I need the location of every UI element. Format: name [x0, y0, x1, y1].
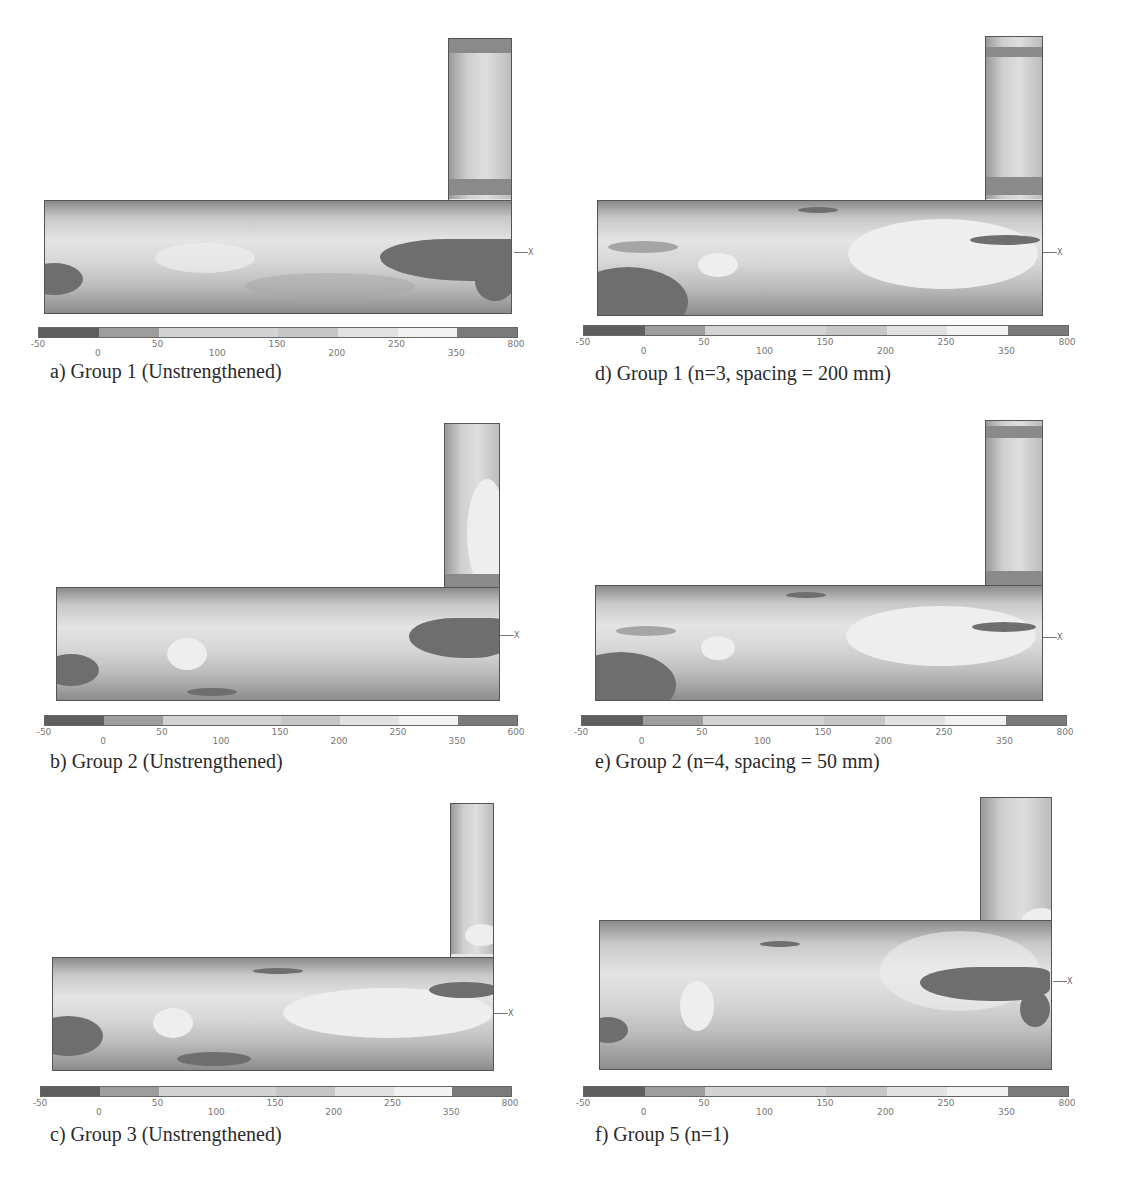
main-pipe	[56, 587, 500, 701]
main-pipe	[599, 920, 1052, 1070]
colorbar-ticks-b: -50 0 50 100 150 200 250 350 600	[44, 727, 516, 749]
panel-caption-d: d) Group 1 (n=3, spacing = 200 mm)	[595, 362, 891, 385]
axis-triad: X	[1053, 977, 1072, 986]
panel-c: X -50 0 50 100 150 200 250 350 800 c) Gr…	[30, 795, 570, 1175]
colorbar-c	[40, 1086, 512, 1097]
colorbar-e	[581, 715, 1067, 726]
axis-triad: X	[514, 248, 533, 257]
panel-b: X -50 0 50 100 150 200 250 350 600 b) Gr…	[30, 415, 570, 795]
colorbar-ticks-a: -50 0 50 100 150 200 250 350 800	[38, 339, 516, 361]
stress-contour-plot-b: X	[30, 415, 570, 725]
stress-contour-plot-e: X	[575, 415, 1115, 725]
axis-triad: X	[1043, 633, 1062, 642]
axis-triad: X	[494, 1009, 513, 1018]
stress-contour-plot-c: X	[30, 795, 570, 1105]
colorbar-a	[38, 327, 518, 338]
stress-contour-plot-a: X	[30, 30, 570, 340]
colorbar-ticks-c: -50 0 50 100 150 200 250 350 800	[40, 1098, 510, 1120]
branch-pipe	[450, 803, 494, 975]
colorbar-f	[583, 1086, 1069, 1097]
stress-contour-plot-d: X	[575, 30, 1115, 340]
colorbar-d	[583, 325, 1069, 336]
branch-pipe	[444, 423, 500, 605]
colorbar-b	[44, 715, 518, 726]
panel-caption-f: f) Group 5 (n=1)	[595, 1123, 729, 1146]
colorbar-ticks-d: -50 0 50 100 150 200 250 350 800	[583, 337, 1067, 359]
branch-pipe	[985, 420, 1043, 602]
axis-triad: X	[500, 631, 519, 640]
panel-caption-c: c) Group 3 (Unstrengthened)	[50, 1123, 282, 1146]
panel-caption-a: a) Group 1 (Unstrengthened)	[50, 360, 282, 383]
axis-triad: X	[1043, 248, 1062, 257]
branch-pipe	[980, 797, 1052, 939]
panel-a: X -50 0 50 100 150 200 250 350 800 a) Gr…	[30, 30, 570, 410]
main-pipe	[52, 957, 494, 1071]
main-pipe	[595, 585, 1043, 701]
main-pipe	[44, 200, 512, 314]
colorbar-ticks-f: -50 0 50 100 150 200 250 350 800	[583, 1098, 1067, 1120]
panel-e: X -50 0 50 100 150 200 250 350 800 e) Gr…	[575, 415, 1115, 795]
main-pipe	[597, 200, 1043, 316]
panel-d: X -50 0 50 100 150 200 250 350 800 d) Gr…	[575, 30, 1115, 410]
stress-contour-plot-f: X	[575, 795, 1115, 1105]
panel-f: X -50 0 50 100 150 200 250 350 800 f) Gr…	[575, 795, 1115, 1175]
colorbar-ticks-e: -50 0 50 100 150 200 250 350 800	[581, 727, 1065, 749]
panel-caption-b: b) Group 2 (Unstrengthened)	[50, 750, 283, 773]
panel-caption-e: e) Group 2 (n=4, spacing = 50 mm)	[595, 750, 880, 773]
